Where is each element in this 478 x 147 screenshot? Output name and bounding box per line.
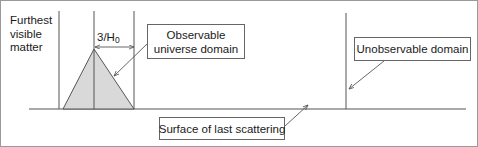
hubble-distance-value: 3/H [97,31,115,43]
hubble-distance-subscript: 0 [115,35,120,45]
light-cone-triangle [63,49,134,109]
callout-observable-universe-domain: Observable universe domain [147,24,245,59]
callout-surface-of-last-scattering: Surface of last scattering [159,117,285,140]
label-furthest-visible-matter: Furthest visible matter [10,14,52,55]
observable-domain-leader-arrow [114,44,147,76]
surface-of-last-scattering-leader-arrow [285,105,308,126]
unobservable-domain-leader-arrow [349,61,384,89]
label-hubble-distance: 3/H0 [97,31,120,45]
callout-unobservable-domain: Unobservable domain [354,37,471,61]
cosmology-diagram: Furthest visible matter 3/H0 Observable … [0,0,478,147]
